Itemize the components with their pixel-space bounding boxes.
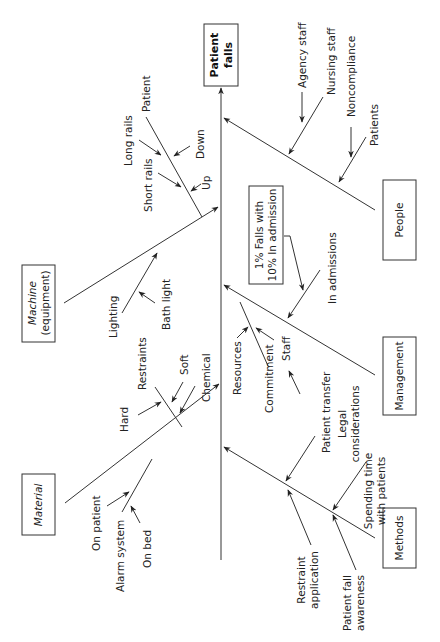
alarm-system-bone [122,459,152,512]
falls-note-line2: 10% In admission [266,189,278,282]
cause-alarm-system: Alarm system [114,520,126,592]
legal-considerations-arrow [289,371,300,394]
falls-note-line1: 1% Falls with [253,201,265,269]
in-admissions-bone [288,270,320,318]
management-bone [224,285,375,375]
cause-up: Up [200,175,212,190]
cause-chemical: Chemical [200,353,212,402]
cause-hard: Hard [118,407,130,432]
restraint-application-arrow [288,490,311,545]
cause-nursing-staff: Nursing staff [325,27,337,95]
cause-bath-light: Bath light [160,279,172,330]
patients-bone [339,137,366,182]
effect-label-line2: falls [222,41,235,68]
category-machine: Machine (equipment) Patient Long rails D… [22,75,218,342]
cause-patient: Patient [140,75,152,112]
cause-patient-transfer: Patient transfer [320,371,332,453]
cause-restraints: Restraints [136,337,148,390]
on-patient-arrow [107,492,129,506]
cause-long-rails: Long rails [122,115,134,166]
lighting-bone [122,253,157,313]
cause-on-patient: On patient [90,495,102,551]
machine-bone [64,207,218,303]
hard-arrow [138,402,161,415]
cause-spending-time: Spending time [362,453,374,529]
material-label: Material [32,484,44,527]
cause-lighting: Lighting [107,296,119,338]
machine-label-line2: (equipment) [39,270,51,335]
fishbone-diagram: Patient falls People Nursing staff Agenc… [0,0,440,642]
cause-commitment: Commitment [263,344,275,413]
cause-noncompliance: Noncompliance [345,36,357,117]
effect-label-line1: Patient [208,33,221,78]
long-rails-arrow [139,140,161,155]
cause-restraint: Restraint [295,556,307,603]
cause-soft: Soft [178,354,190,375]
soft-arrow [172,382,183,402]
cause-resources: Resources [231,341,243,395]
restraints-bone [155,387,182,427]
patient-fall-awareness-arrow [333,515,356,570]
cause-patients: Patients [368,104,380,146]
management-label: Management [393,341,405,410]
patient-transfer-arrow [286,436,315,481]
effect-box: Patient falls [204,24,238,86]
material-bone [65,384,219,503]
cause-considerations: considerations [349,386,361,463]
on-bed-arrow [131,506,140,523]
cause-patient-fall: Patient fall [341,575,353,631]
nursing-staff-bone [289,97,323,154]
resources-arrow [237,327,248,338]
bath-light-arrow [139,292,155,303]
cause-agency-staff: Agency staff [296,22,308,88]
note-leader-arrow [290,236,303,290]
cause-in-admissions: In admissions [326,232,338,304]
cause-staff: Staff [280,336,292,361]
machine-label-line1: Machine [26,281,38,325]
short-rails-arrow [158,173,181,187]
people-bone [224,118,375,210]
cause-awareness: awareness [354,575,366,631]
people-label: People [393,203,405,238]
staff-arrow [256,328,274,340]
cause-on-bed: On bed [141,530,153,568]
cause-short-rails: Short rails [142,158,154,212]
down-arrow [174,146,190,156]
cause-application: application [308,551,320,609]
cause-with-patients: with patients [375,457,387,525]
cause-legal: Legal [336,410,348,438]
category-material: Material Restraints Hard Soft Chemical A… [22,337,219,592]
cause-down: Down [194,129,206,159]
methods-label: Methods [393,516,405,561]
